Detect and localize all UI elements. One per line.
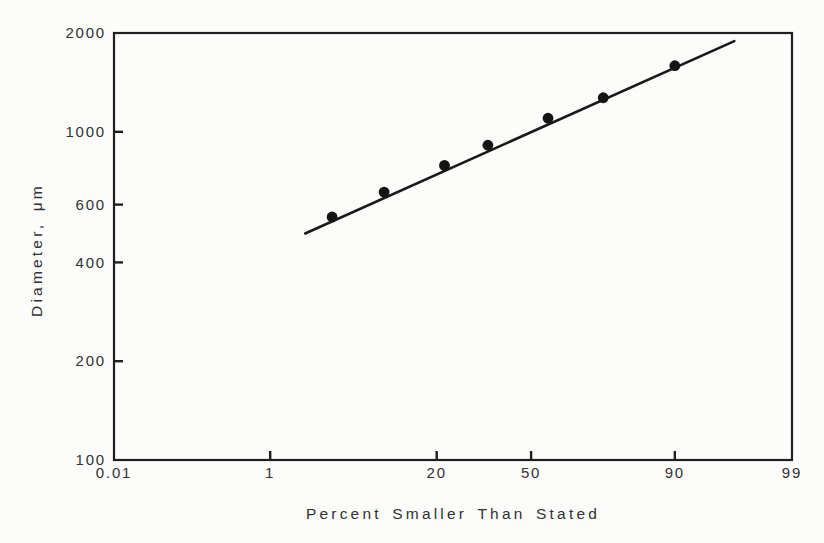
data-point: [482, 140, 493, 151]
y-axis-ticks: [115, 132, 123, 361]
y-tick-label: 200: [76, 352, 106, 369]
fit-line: [305, 41, 734, 233]
data-point: [439, 160, 450, 171]
y-tick-label: 600: [76, 196, 106, 213]
x-axis-title: Percent Smaller Than Stated: [306, 505, 600, 522]
plot-border: [114, 33, 792, 460]
plot-frame-rect: [114, 33, 792, 460]
data-point: [598, 92, 609, 103]
x-tick-label: 50: [521, 464, 541, 481]
data-point: [543, 113, 554, 124]
x-tick-label: 20: [427, 464, 447, 481]
chart-figure: 10020040060010002000 0.01120509099 Perce…: [0, 0, 824, 543]
y-tick-label: 2000: [65, 24, 106, 41]
x-tick-label: 0.01: [96, 464, 132, 481]
data-point: [379, 187, 390, 198]
x-tick-label: 1: [265, 464, 275, 481]
data-point: [327, 212, 338, 223]
regression-line: [305, 41, 734, 233]
x-tick-label: 99: [782, 464, 802, 481]
y-tick-label: 400: [76, 254, 106, 271]
data-points: [327, 60, 681, 222]
y-axis-tick-labels: 10020040060010002000: [65, 24, 106, 468]
x-axis-tick-labels: 0.01120509099: [96, 464, 802, 481]
log-probability-chart: 10020040060010002000 0.01120509099 Perce…: [0, 0, 824, 543]
x-tick-label: 90: [665, 464, 685, 481]
y-tick-label: 1000: [65, 123, 106, 140]
data-point: [669, 60, 680, 71]
x-axis-ticks: [270, 451, 675, 459]
y-axis-title: Diameter, μm: [28, 183, 45, 317]
